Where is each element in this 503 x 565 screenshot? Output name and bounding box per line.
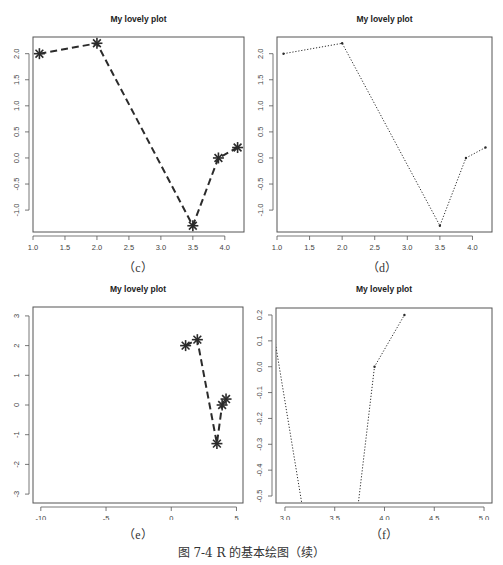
y-tick-label: 1.5 <box>12 75 21 85</box>
x-tick-label: 3.0 <box>402 243 412 250</box>
y-tick-label: -0.2 <box>255 412 264 425</box>
data-line <box>284 43 486 225</box>
x-tick-label: 1.0 <box>272 243 282 250</box>
y-axis: -1.0-0.50.00.51.01.52.0 <box>12 48 29 216</box>
x-tick-label: 2.0 <box>92 243 102 250</box>
y-tick-label: 1.0 <box>256 101 265 111</box>
point-marker <box>341 42 343 44</box>
data-markers <box>282 42 486 227</box>
asterisk-marker <box>187 220 198 231</box>
y-tick-label: -0.1 <box>255 386 264 399</box>
x-tick-label: 0 <box>169 514 173 520</box>
y-tick-label: 1.0 <box>12 101 21 111</box>
y-tick-label: -0.3 <box>255 438 264 451</box>
y-tick-label: -2 <box>12 461 21 468</box>
x-axis: -10-505 <box>35 507 238 520</box>
data-markers <box>34 38 243 231</box>
y-tick-label: -1.0 <box>256 204 265 217</box>
x-axis: 1.01.52.02.53.03.54.0 <box>28 236 230 250</box>
asterisk-marker <box>211 438 222 449</box>
asterisk-marker <box>232 142 243 153</box>
y-tick-label: 0.5 <box>12 127 21 137</box>
y-tick-label: 3 <box>12 314 21 318</box>
figure: My lovely plot1.01.52.02.53.03.54.0-1.0-… <box>0 0 503 565</box>
y-tick-label: 0.0 <box>12 153 21 163</box>
y-tick-label: 0.2 <box>255 310 264 320</box>
x-tick-label: 5 <box>234 514 238 520</box>
y-axis: -0.5-0.4-0.3-0.2-0.10.00.10.2 <box>255 310 272 503</box>
y-tick-label: 0.0 <box>255 361 264 371</box>
point-marker <box>439 225 441 227</box>
plot-title: My lovely plot <box>356 14 412 24</box>
x-tick-label: 3.0 <box>156 243 166 250</box>
y-tick-label: 2 <box>12 344 21 348</box>
plot-frame <box>277 37 492 232</box>
x-tick-label: 3.0 <box>280 514 290 520</box>
x-tick-label: 1.5 <box>60 243 70 250</box>
x-tick-label: 2.0 <box>337 243 347 250</box>
x-tick-label: 1.0 <box>28 243 38 250</box>
y-tick-label: -0.5 <box>12 178 21 191</box>
y-tick-label: 0 <box>12 403 21 407</box>
y-tick-label: -0.5 <box>256 178 265 191</box>
panel-label-e: （e） <box>108 525 168 543</box>
y-axis: -3-2-10123 <box>12 314 29 498</box>
plot-panel-f: My lovely plot3.03.54.04.55.0-0.5-0.4-0.… <box>251 270 503 520</box>
plot-title: My lovely plot <box>356 284 412 294</box>
x-tick-label: 2.5 <box>370 243 380 250</box>
plot-frame <box>33 307 243 503</box>
x-tick-label: 3.5 <box>188 243 198 250</box>
x-tick-label: 3.5 <box>435 243 445 250</box>
panel-label-f: （f） <box>354 525 414 543</box>
y-axis: -1.0-0.50.00.51.01.52.0 <box>256 48 273 216</box>
x-tick-label: 5.0 <box>479 514 489 520</box>
asterisk-marker <box>34 48 45 59</box>
x-tick-label: 4.0 <box>379 514 389 520</box>
plot-title: My lovely plot <box>110 14 166 24</box>
data-markers <box>180 334 231 449</box>
y-tick-label: -1.0 <box>12 204 21 217</box>
x-axis: 1.01.52.02.53.03.54.0 <box>272 236 478 250</box>
panel-label-d: （d） <box>352 258 412 276</box>
panel-label-c: （c） <box>108 258 168 276</box>
asterisk-marker <box>221 394 232 405</box>
x-tick-label: 4.0 <box>220 243 230 250</box>
y-tick-label: -0.5 <box>255 490 264 503</box>
point-marker <box>373 366 375 368</box>
data-line <box>186 340 226 444</box>
x-tick-label: 1.5 <box>304 243 314 250</box>
plot-panel-c: My lovely plot1.01.52.02.53.03.54.0-1.0-… <box>0 0 252 250</box>
x-tick-label: -10 <box>35 514 46 520</box>
x-tick-label: 3.5 <box>330 514 340 520</box>
point-marker <box>484 146 486 148</box>
y-tick-label: 2.0 <box>256 48 265 58</box>
point-marker <box>282 52 284 54</box>
plot-frame <box>33 37 244 232</box>
y-tick-label: 1 <box>12 373 21 377</box>
plot-panel-e: My lovely plot-10-505-3-2-10123 <box>0 270 252 520</box>
x-axis: 3.03.54.04.55.0 <box>280 507 490 520</box>
data-line <box>39 43 237 225</box>
asterisk-marker <box>192 334 203 345</box>
y-tick-label: -1 <box>12 431 21 438</box>
y-tick-label: 0.5 <box>256 127 265 137</box>
plot-title: My lovely plot <box>110 284 166 294</box>
y-tick-label: 1.5 <box>256 75 265 85</box>
x-tick-label: -5 <box>103 514 110 520</box>
plot-frame <box>276 308 492 503</box>
asterisk-marker <box>91 38 102 49</box>
asterisk-marker <box>180 340 191 351</box>
x-tick-label: 2.5 <box>124 243 134 250</box>
asterisk-marker <box>213 152 224 163</box>
point-marker <box>403 314 405 316</box>
y-tick-label: -0.4 <box>255 464 264 477</box>
y-tick-label: 0.1 <box>255 336 264 346</box>
x-tick-label: 4.5 <box>429 514 439 520</box>
x-tick-label: 4.0 <box>467 243 477 250</box>
plot-panel-d: My lovely plot1.01.52.02.53.03.54.0-1.0-… <box>251 0 503 250</box>
point-marker <box>465 157 467 159</box>
y-tick-label: -3 <box>12 491 21 498</box>
figure-caption: 图 7-4 R 的基本绘图（续） <box>0 543 503 560</box>
y-tick-label: 0.0 <box>256 153 265 163</box>
y-tick-label: 2.0 <box>12 48 21 58</box>
